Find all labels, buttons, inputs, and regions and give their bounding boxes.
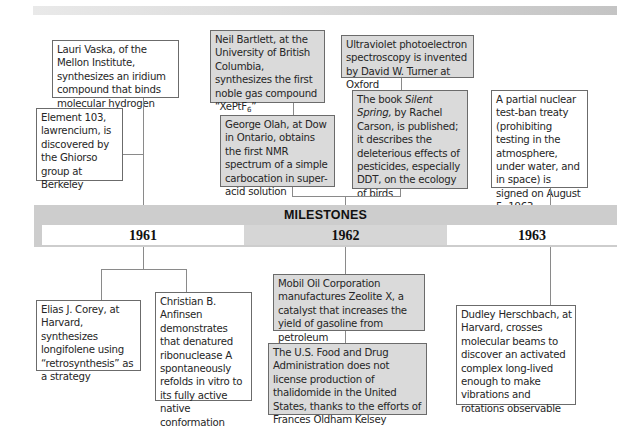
event-carson: The book Silent Spring, by Rachel Carson… bbox=[352, 90, 468, 189]
band-title: MILESTONES bbox=[34, 205, 617, 225]
connector-1963-above bbox=[550, 188, 551, 205]
event-lawrencium: Element 103, lawrencium, is discovered b… bbox=[36, 108, 123, 181]
event-test-ban: A partial nuclear test-ban treaty (prohi… bbox=[491, 90, 588, 188]
connector-1961-above bbox=[143, 98, 144, 205]
bartlett-text: Neil Bartlett, at the University of Brit… bbox=[215, 34, 317, 112]
carson-text-end: by Rachel Carson, is published; it descr… bbox=[357, 107, 460, 198]
connector-1962-bracket bbox=[292, 196, 401, 197]
connector-corey bbox=[101, 269, 102, 300]
year-1962: 1962 bbox=[244, 225, 447, 245]
year-1961: 1961 bbox=[42, 225, 244, 245]
connector-anfinsen bbox=[186, 269, 187, 292]
connector-turner-carson bbox=[401, 78, 402, 90]
event-olah: George Olah, at Dow in Ontario, obtains … bbox=[220, 115, 335, 187]
event-anfinsen: Christian B. Anfinsen demonstrates that … bbox=[155, 292, 252, 401]
event-mobil: Mobil Oil Corporation manufactures Zeoli… bbox=[273, 274, 425, 331]
event-bartlett: Neil Bartlett, at the University of Brit… bbox=[210, 30, 325, 103]
event-herschbach: Dudley Herschbach, at Harvard, crosses m… bbox=[456, 305, 576, 405]
connector-1962-above bbox=[345, 196, 346, 205]
connector-1963-below bbox=[550, 247, 551, 305]
connector-1962-below bbox=[345, 247, 346, 274]
carson-text: The book bbox=[357, 94, 405, 105]
connector-1961-below bbox=[143, 247, 144, 269]
milestones-band: MILESTONES 1961 1962 1963 bbox=[34, 205, 617, 247]
connector-bartlett-olah bbox=[293, 103, 294, 115]
top-decorative-bar bbox=[33, 6, 617, 15]
event-corey: Elias J. Corey, at Harvard, synthesizes … bbox=[36, 300, 141, 371]
event-vaska: Lauri Vaska, of the Mellon Institute, sy… bbox=[52, 40, 179, 98]
connector-lawrencium bbox=[123, 154, 143, 155]
connector-1961-bracket bbox=[101, 269, 187, 270]
connector-mobil-fda bbox=[345, 331, 346, 343]
event-fda: The U.S. Food and Drug Administration do… bbox=[268, 343, 427, 415]
bartlett-text-end: ” bbox=[251, 101, 256, 112]
year-1963: 1963 bbox=[447, 225, 617, 245]
event-turner: Ultraviolet photoelectron spectroscopy i… bbox=[341, 35, 474, 78]
